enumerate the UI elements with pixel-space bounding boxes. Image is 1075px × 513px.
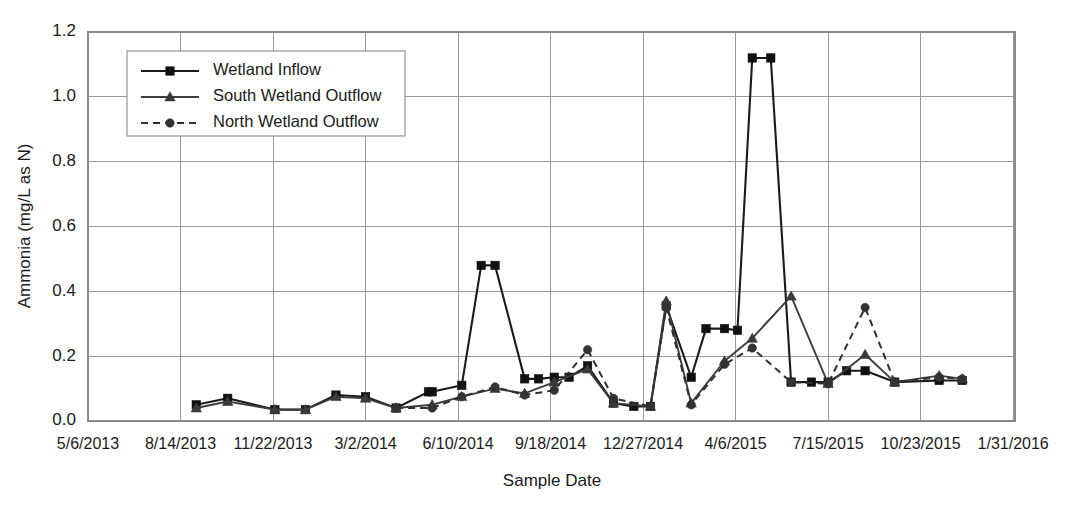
x-tick-label: 8/14/2013 (145, 435, 216, 452)
chart-legend: Wetland InflowSouth Wetland OutflowNorth… (127, 51, 405, 136)
y-tick-label: 1.0 (52, 86, 76, 105)
x-tick-label: 6/10/2014 (422, 435, 493, 452)
data-marker-square (733, 326, 741, 334)
data-marker-circle (428, 404, 436, 412)
data-marker-circle (662, 303, 670, 311)
x-tick-label: 3/2/2014 (334, 435, 396, 452)
data-marker-square (477, 261, 485, 269)
x-tick-label: 5/6/2013 (57, 435, 119, 452)
x-tick-label: 11/22/2013 (234, 435, 313, 452)
y-tick-label: 1.2 (52, 21, 76, 40)
x-tick-label: 1/31/2016 (978, 435, 1049, 452)
legend-label: Wetland Inflow (213, 60, 321, 78)
data-marker-square (720, 324, 728, 332)
data-marker-square (520, 375, 528, 383)
data-marker-circle (550, 386, 558, 394)
data-marker-circle (166, 119, 174, 127)
data-marker-circle (787, 378, 795, 386)
ammonia-time-series-chart: 0.00.20.40.60.81.01.2 5/6/20138/14/20131… (0, 0, 1075, 513)
data-marker-square (491, 261, 499, 269)
series-north-wetland-outflow (392, 303, 967, 412)
data-marker-circle (520, 391, 528, 399)
data-marker-square (702, 324, 710, 332)
data-marker-square (534, 375, 542, 383)
legend-label: South Wetland Outflow (213, 86, 382, 104)
y-axis-title: Ammonia (mg/L as N) (15, 144, 34, 309)
data-marker-square (458, 381, 466, 389)
data-marker-circle (583, 345, 591, 353)
y-axis-tick-labels: 0.00.20.40.60.81.01.2 (52, 21, 76, 429)
data-marker-circle (458, 392, 466, 400)
chart-canvas: 0.00.20.40.60.81.01.2 5/6/20138/14/20131… (0, 0, 1075, 513)
data-marker-circle (491, 383, 499, 391)
data-marker-circle (609, 394, 617, 402)
data-marker-circle (958, 375, 966, 383)
x-tick-label: 4/6/2015 (704, 435, 766, 452)
x-tick-label: 10/23/2015 (881, 435, 961, 452)
data-marker-circle (646, 402, 654, 410)
legend-label: North Wetland Outflow (213, 112, 379, 130)
data-marker-square (428, 388, 436, 396)
data-marker-circle (891, 378, 899, 386)
data-marker-circle (720, 360, 728, 368)
data-marker-triangle (786, 291, 796, 300)
data-marker-circle (748, 344, 756, 352)
data-marker-circle (392, 404, 400, 412)
x-tick-label: 12/27/2014 (603, 435, 683, 452)
series-line (196, 296, 962, 409)
data-marker-square (861, 367, 869, 375)
data-marker-circle (861, 303, 869, 311)
data-marker-square (687, 373, 695, 381)
x-tick-label: 9/18/2014 (515, 435, 586, 452)
data-marker-square (748, 54, 756, 62)
y-tick-label: 0.4 (52, 281, 76, 300)
series-south-wetland-outflow (191, 291, 967, 414)
data-marker-circle (824, 380, 832, 388)
y-tick-label: 0.6 (52, 216, 76, 235)
data-marker-square (166, 67, 174, 75)
x-axis-title: Sample Date (503, 471, 601, 490)
data-marker-triangle (860, 349, 870, 358)
y-tick-label: 0.0 (52, 410, 76, 429)
y-tick-label: 0.2 (52, 346, 76, 365)
data-marker-circle (687, 401, 695, 409)
y-tick-label: 0.8 (52, 151, 76, 170)
data-marker-circle (935, 373, 943, 381)
x-tick-label: 7/15/2015 (793, 435, 864, 452)
x-axis-tick-labels: 5/6/20138/14/201311/22/20133/2/20146/10/… (57, 435, 1049, 452)
data-marker-square (767, 54, 775, 62)
